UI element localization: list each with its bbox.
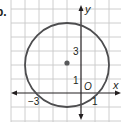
part-label: b. bbox=[0, 5, 7, 19]
coordinate-plane-figure: b. y x O −3 1 1 3 bbox=[0, 0, 121, 122]
origin-label: O bbox=[84, 81, 92, 92]
center-point bbox=[64, 60, 69, 65]
tick-label-y-3: 3 bbox=[73, 46, 79, 57]
tick-label-x-neg3: −3 bbox=[28, 96, 40, 107]
y-axis bbox=[79, 5, 84, 120]
x-axis-label: x bbox=[112, 79, 119, 91]
tick-label-y-1: 1 bbox=[73, 75, 79, 86]
tick-label-x-1: 1 bbox=[92, 96, 98, 107]
x-axis bbox=[11, 91, 121, 96]
